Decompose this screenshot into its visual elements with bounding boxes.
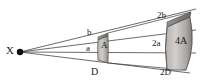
label-near-area: A [101,41,108,50]
label-far-height: 2b [157,11,166,20]
label-far-distance: 2D [160,68,171,77]
inverse-square-law-diagram: X b a A D 2b 2a 4A 2D [0,0,208,83]
label-far-area: 4A [175,36,187,46]
label-near-width: a [86,44,90,53]
apex-point-marker [17,49,23,55]
label-source-point: X [6,45,14,56]
label-near-distance: D [91,67,98,77]
label-far-width: 2a [152,39,161,48]
label-near-height: b [87,28,92,37]
